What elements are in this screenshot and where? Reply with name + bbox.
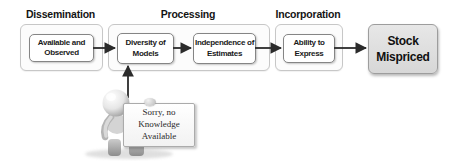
node-ability-to-express: Ability to Express: [283, 34, 335, 63]
node-diversity-of-models: Diversity of Models: [117, 33, 174, 64]
protest-sign: Sorry, no Knowledge Available: [123, 103, 195, 147]
stage-label-dissemination: Dissemination: [12, 7, 109, 21]
figure-right-hand: [144, 98, 156, 106]
figure-left-leg: [108, 139, 121, 156]
node-available-and-observed: Available and Observed: [29, 34, 94, 62]
stage-label-incorporation: Incorporation: [267, 7, 349, 21]
flow-diagram-canvas: Dissemination Processing Incorporation A…: [0, 0, 459, 161]
node-independence-of-estimates: Independence of Estimates: [193, 33, 256, 64]
figure-ground-shadow: [85, 149, 173, 159]
node-stock-mispriced: Stock Mispriced: [368, 24, 438, 74]
figure-left-arm: [104, 117, 111, 137]
figure-left-arm-highlight: [105, 117, 111, 136]
figure-head-highlight: [106, 93, 116, 101]
stage-label-processing: Processing: [108, 7, 268, 21]
